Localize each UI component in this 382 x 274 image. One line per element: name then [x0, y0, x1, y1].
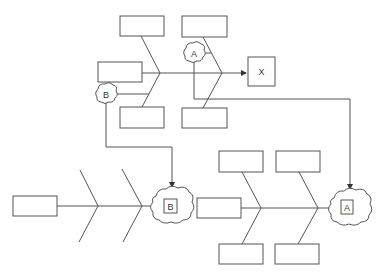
bottom-right-fishbone: A: [197, 151, 372, 264]
bl-rib-1-lower: [79, 206, 98, 242]
top-fishbone: X A B: [96, 16, 275, 128]
top-rib-1-upper: [141, 36, 160, 73]
cause-box: [13, 196, 57, 216]
effect-label-a: A: [344, 203, 350, 213]
bl-rib-2-lower: [123, 206, 142, 242]
top-rib-2-lower: [203, 73, 222, 108]
cause-box: [219, 151, 263, 172]
top-rib-2-upper: [203, 37, 222, 73]
effect-label-x: X: [258, 67, 264, 77]
effect-label-b: B: [167, 202, 173, 212]
cloud-b-small-label: B: [103, 90, 109, 100]
cause-box: [120, 107, 164, 128]
br-rib-1-lower: [242, 208, 261, 244]
bl-rib-1-upper: [80, 170, 98, 206]
br-rib-2-lower: [298, 208, 318, 244]
cause-box: [275, 244, 319, 264]
br-rib-2-upper: [299, 172, 318, 208]
cloud-a-small-label: A: [191, 49, 197, 59]
top-rib-1-lower: [142, 73, 160, 107]
cause-box: [219, 244, 263, 264]
bl-rib-2-upper: [122, 169, 142, 206]
cause-box: [276, 151, 320, 172]
cause-box: [182, 16, 227, 37]
br-rib-1-upper: [242, 172, 261, 208]
bottom-left-fishbone: B: [13, 169, 194, 242]
fishbone-diagram: X A B B: [0, 0, 382, 274]
cause-box: [120, 16, 164, 36]
cause-box: [98, 62, 142, 82]
cause-box: [182, 108, 227, 128]
cause-box: [197, 198, 241, 218]
